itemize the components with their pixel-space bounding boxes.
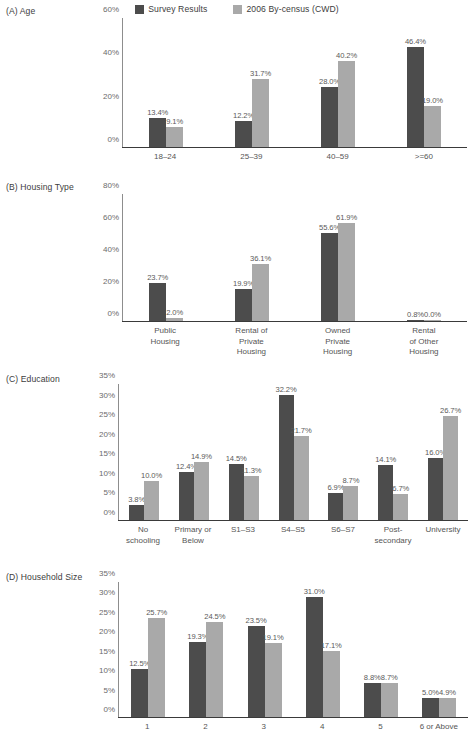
x-axis-tick-label: 25–39 bbox=[208, 152, 294, 163]
bar-wrapper: 25.7% bbox=[148, 582, 165, 717]
bar-census[interactable]: 11.3% bbox=[244, 476, 259, 520]
bar-value-label: 9.1% bbox=[166, 117, 183, 126]
bar-census[interactable]: 6.7% bbox=[393, 494, 408, 520]
bar-survey[interactable]: 6.9% bbox=[328, 493, 343, 520]
bar-survey[interactable]: 12.2% bbox=[235, 121, 252, 147]
bar-census[interactable]: 19.0% bbox=[424, 106, 441, 147]
bar-value-label: 40.2% bbox=[336, 51, 357, 60]
y-axis-tick: 20% bbox=[99, 627, 118, 636]
legend-swatch-light-icon bbox=[233, 5, 242, 14]
bar-value-label: 0.8% bbox=[407, 310, 424, 319]
y-axis-tick: 0% bbox=[107, 135, 122, 144]
bar-wrapper: 12.2% bbox=[235, 18, 252, 147]
bar-group: 19.9%36.1% bbox=[209, 194, 295, 321]
panel-title: (B) Housing Type bbox=[6, 182, 74, 192]
bar-survey[interactable]: 32.2% bbox=[279, 395, 294, 520]
bar-wrapper: 32.2% bbox=[279, 384, 294, 520]
bar-value-label: 46.4% bbox=[405, 37, 426, 46]
x-axis-tick-label: 2 bbox=[176, 722, 234, 733]
bar-group: 8.8%8.7% bbox=[352, 582, 410, 717]
y-axis-tick: 60% bbox=[103, 5, 122, 14]
bar-group: 5.0%4.9% bbox=[410, 582, 468, 717]
bar-census[interactable]: 61.9% bbox=[338, 223, 355, 321]
bar-group: 12.5%25.7% bbox=[119, 582, 177, 717]
bar-survey[interactable]: 16.0% bbox=[428, 458, 443, 520]
bar-wrapper: 24.5% bbox=[206, 582, 223, 717]
bar-census[interactable]: 8.7% bbox=[381, 683, 398, 717]
y-axis-tick: 10% bbox=[99, 468, 118, 477]
bar-wrapper: 10.0% bbox=[144, 384, 159, 520]
bar-survey[interactable]: 55.6% bbox=[321, 233, 338, 321]
bar-value-label: 11.3% bbox=[241, 466, 261, 475]
bar-wrapper: 23.5% bbox=[248, 582, 265, 717]
bar-survey[interactable]: 28.0% bbox=[321, 87, 338, 147]
bar-group: 0.8%0.0% bbox=[381, 194, 467, 321]
bar-value-label: 21.7% bbox=[291, 426, 312, 435]
x-axis-tick-label: S6–S7 bbox=[318, 525, 368, 546]
bar-survey[interactable]: 3.8% bbox=[129, 505, 144, 520]
chart-legend: Survey Results 2006 By-census (CWD) bbox=[0, 2, 474, 16]
bar-survey[interactable]: 13.4% bbox=[149, 118, 166, 147]
bar-census[interactable]: 24.5% bbox=[206, 622, 223, 716]
bar-wrapper: 14.9% bbox=[194, 384, 209, 520]
bar-group: 14.5%11.3% bbox=[219, 384, 269, 520]
bar-census[interactable]: 8.7% bbox=[343, 486, 358, 520]
x-axis-tick-label: 5 bbox=[351, 722, 409, 733]
x-axis-tick-label: 40–59 bbox=[295, 152, 381, 163]
bar-survey[interactable]: 5.0% bbox=[422, 698, 439, 717]
bar-group: 55.6%61.9% bbox=[295, 194, 381, 321]
x-axis-tick-label: University bbox=[418, 525, 468, 546]
bar-census[interactable]: 31.7% bbox=[252, 79, 269, 147]
bar-census[interactable]: 36.1% bbox=[252, 264, 269, 321]
bar-value-label: 23.5% bbox=[246, 616, 267, 625]
bar-census[interactable]: 40.2% bbox=[338, 61, 355, 147]
bar-survey[interactable]: 12.5% bbox=[131, 669, 148, 717]
y-axis-tick: 10% bbox=[99, 666, 118, 675]
x-axis-labels: No schoolingPrimary or BelowS1–S3S4–S5S6… bbox=[118, 525, 468, 546]
bar-value-label: 61.9% bbox=[336, 213, 357, 222]
bar-census[interactable]: 26.7% bbox=[443, 416, 458, 520]
bar-survey[interactable]: 23.7% bbox=[149, 283, 166, 321]
bar-group: 12.2%31.7% bbox=[209, 18, 295, 147]
bar-census[interactable]: 25.7% bbox=[148, 618, 165, 717]
panel-title: (A) Age bbox=[6, 6, 35, 16]
bar-group: 19.3%24.5% bbox=[177, 582, 235, 717]
bar-survey[interactable]: 8.8% bbox=[364, 683, 381, 717]
bar-wrapper: 3.8% bbox=[129, 384, 144, 520]
bar-survey[interactable]: 14.1% bbox=[378, 465, 393, 520]
x-axis-tick-label: 1 bbox=[118, 722, 176, 733]
y-axis-tick: 20% bbox=[103, 277, 122, 286]
bar-group: 13.4%9.1% bbox=[123, 18, 209, 147]
bar-value-label: 14.9% bbox=[191, 452, 212, 461]
x-axis-tick-label: 3 bbox=[235, 722, 293, 733]
bar-survey[interactable]: 19.3% bbox=[189, 642, 206, 716]
y-axis-tick: 20% bbox=[99, 429, 118, 438]
bar-wrapper: 16.0% bbox=[428, 384, 443, 520]
bar-wrapper: 36.1% bbox=[252, 194, 269, 321]
bar-census[interactable]: 9.1% bbox=[166, 127, 183, 147]
bar-census[interactable]: 17.1% bbox=[323, 651, 340, 717]
bar-wrapper: 4.9% bbox=[439, 582, 456, 717]
bar-survey[interactable]: 19.9% bbox=[235, 289, 252, 321]
bar-survey[interactable]: 31.0% bbox=[306, 597, 323, 716]
y-axis-tick: 0% bbox=[103, 705, 118, 714]
bar-survey[interactable]: 12.4% bbox=[179, 472, 194, 520]
bar-census[interactable]: 21.7% bbox=[294, 436, 309, 520]
x-axis-tick-label: >=60 bbox=[381, 152, 467, 163]
bar-value-label: 23.7% bbox=[147, 273, 168, 282]
bar-group: 32.2%21.7% bbox=[269, 384, 319, 520]
bar-wrapper: 12.5% bbox=[131, 582, 148, 717]
bar-census[interactable]: 4.9% bbox=[439, 698, 456, 717]
bar-census[interactable]: 14.9% bbox=[194, 462, 209, 520]
bar-census[interactable]: 10.0% bbox=[144, 481, 159, 520]
legend-item-survey-results: Survey Results bbox=[135, 4, 207, 14]
bar-group: 46.4%19.0% bbox=[381, 18, 467, 147]
bar-wrapper: 0.8% bbox=[407, 194, 424, 321]
y-axis-tick: 60% bbox=[103, 213, 122, 222]
bar-value-label: 4.9% bbox=[439, 688, 456, 697]
plot-area: 0%20%40%60%13.4%9.1%12.2%31.7%28.0%40.2%… bbox=[122, 18, 467, 148]
y-axis-tick: 15% bbox=[99, 449, 118, 458]
bar-value-label: 17.1% bbox=[321, 641, 342, 650]
bar-census[interactable]: 19.1% bbox=[265, 643, 282, 717]
bar-value-label: 26.7% bbox=[440, 406, 461, 415]
